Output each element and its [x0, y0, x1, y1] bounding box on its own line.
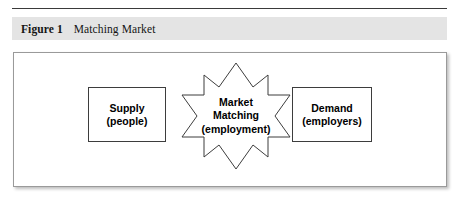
node-supply-line-2: (people) [107, 115, 148, 128]
node-market-matching: Market Matching (employment) [179, 62, 293, 170]
node-matching-line-2: Matching [213, 109, 259, 123]
node-matching-line-3: (employment) [202, 123, 271, 137]
node-demand-line-1: Demand [311, 102, 352, 115]
node-supply: Supply (people) [88, 87, 166, 142]
matching-market-diagram: Supply (people) Market Matching (employm… [0, 0, 460, 205]
node-demand-line-2: (employers) [302, 115, 362, 128]
node-market-matching-label: Market Matching (employment) [179, 62, 293, 170]
node-supply-line-1: Supply [109, 102, 144, 115]
node-matching-line-1: Market [219, 96, 253, 110]
node-demand: Demand (employers) [292, 87, 372, 142]
